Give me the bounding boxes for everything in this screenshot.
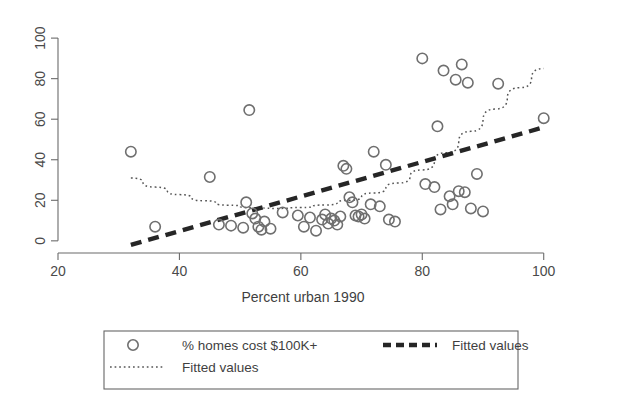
scatter-point — [311, 226, 321, 236]
x-axis-ticks: 20406080100 — [50, 253, 555, 279]
scatter-point — [293, 210, 303, 220]
x-tick-label: 100 — [532, 263, 556, 279]
y-tick-label: 60 — [32, 111, 48, 127]
scatter-point — [369, 146, 379, 156]
scatter-point — [126, 146, 136, 156]
x-tick-label: 60 — [293, 263, 309, 279]
scatter-point — [539, 113, 549, 123]
plot-series — [126, 53, 549, 245]
chart-figure: 020406080100 20406080100 Percent urban 1… — [0, 0, 624, 411]
y-tick-label: 80 — [32, 71, 48, 87]
y-tick-label: 20 — [32, 192, 48, 208]
scatter-point — [478, 206, 488, 216]
x-tick-label: 20 — [50, 263, 66, 279]
x-tick-label: 40 — [172, 263, 188, 279]
scatter-point — [226, 220, 236, 230]
scatter-point — [341, 164, 351, 174]
y-axis-ticks: 020406080100 — [32, 26, 58, 245]
scatter-point — [466, 203, 476, 213]
legend-open-circle-icon — [128, 340, 138, 350]
scatter-point — [493, 79, 503, 89]
scatter-point — [384, 214, 394, 224]
scatter-point — [305, 212, 315, 222]
scatter-point — [390, 216, 400, 226]
fitted-values-dotted-curve — [131, 69, 544, 209]
scatter-point — [472, 169, 482, 179]
scatter-point — [238, 222, 248, 232]
scatter-point — [244, 105, 254, 115]
legend-label-homes: % homes cost $100K+ — [182, 338, 318, 353]
scatter-point — [338, 161, 348, 171]
scatter-point — [438, 65, 448, 75]
scatter-point — [460, 187, 470, 197]
scatter-point — [435, 204, 445, 214]
scatter-point — [150, 221, 160, 231]
y-tick-label: 40 — [32, 152, 48, 168]
scatter-point — [381, 160, 391, 170]
fitted-values-dashed-line — [131, 127, 544, 245]
x-tick-label: 80 — [414, 263, 430, 279]
scatter-point — [417, 53, 427, 63]
legend-label-fitted-dotted: Fitted values — [182, 360, 259, 375]
scatter-point — [457, 59, 467, 69]
y-tick-label: 100 — [32, 26, 48, 50]
scatter-point — [429, 182, 439, 192]
x-axis-title: Percent urban 1990 — [242, 289, 365, 305]
y-tick-label: 0 — [32, 237, 48, 245]
scatter-point — [450, 74, 460, 84]
chart-legend: % homes cost $100K+ Fitted values Fitted… — [104, 331, 529, 389]
legend-label-fitted-dashed: Fitted values — [452, 338, 529, 353]
scatter-point — [463, 78, 473, 88]
plot-axes: 020406080100 20406080100 — [32, 26, 556, 279]
scatter-point — [432, 121, 442, 131]
scatter-point — [241, 197, 251, 207]
scatter-point — [205, 172, 215, 182]
scatter-plot-svg: 020406080100 20406080100 Percent urban 1… — [0, 0, 624, 411]
